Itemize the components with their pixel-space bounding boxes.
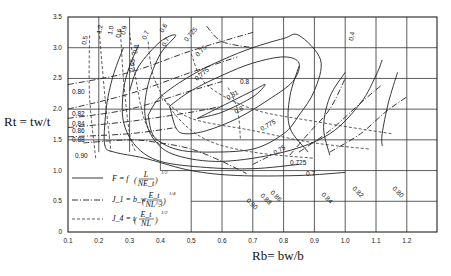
contour-label: 0.6: [158, 22, 169, 34]
chart: 0.51.21.00.60.90.650.80.70.70.60.7250.75…: [0, 0, 451, 276]
contour-label: 0.80: [72, 88, 85, 95]
legend-denominator: NL: [140, 219, 151, 228]
legend-numerator: E_t: [147, 191, 160, 200]
contour-label: 0.725: [182, 25, 198, 42]
legend-denominator: NE_t: [137, 179, 155, 188]
x-tick-labels: 0.10.20.30.40.50.60.70.80.91.01.11.2: [63, 237, 411, 244]
x-tick-label: 1.0: [341, 237, 350, 244]
contour-label: 0.9: [119, 25, 128, 35]
contour-label: 0.88: [72, 136, 85, 143]
contour-label: 0.7: [140, 29, 150, 40]
legend-paren-right: ): [154, 216, 158, 225]
contour-curves: [68, 26, 407, 176]
x-tick-label: 0.3: [125, 237, 134, 244]
contour-label: 0.86: [72, 127, 85, 134]
legend-paren-right: ): [154, 176, 158, 185]
y-tick-label: 1.5: [53, 136, 62, 143]
legend-numerator: E_t: [139, 210, 152, 219]
x-tick-label: 0.2: [94, 237, 103, 244]
contour-label: 0.4: [347, 31, 356, 41]
x-tick-label: 0.1: [63, 237, 72, 244]
legend-exponent: 1/4: [169, 191, 176, 196]
legend-entry: J_4 = t(E_tNL)1/2: [112, 210, 168, 228]
legend-paren-right: ): [162, 197, 166, 206]
contour-label: 0.84: [72, 120, 85, 127]
x-tick-label: 0.5: [187, 237, 196, 244]
x-tick-label: 0.7: [248, 237, 257, 244]
contour-label: 0.8: [131, 44, 140, 54]
y-tick-label: 3.0: [53, 44, 62, 51]
contour-label: 0.82: [72, 110, 85, 117]
legend-lhs: J_4 = t: [112, 214, 136, 223]
legend-exponent: 1/2: [161, 170, 168, 175]
y-tick-label: 3.5: [53, 13, 62, 20]
legend-numerator: L: [143, 170, 149, 179]
legend: F = f(LNE_t)1/2J_1 = b_w(E_tNL^3)1/4J_4 …: [72, 170, 176, 228]
y-tick-label: 0.5: [53, 197, 62, 204]
legend-denominator: NL^3: [144, 200, 162, 209]
series-curve-5: [104, 48, 345, 176]
y-axis-label: Rt = tw/t: [4, 114, 51, 129]
contour-label: 1.0: [106, 25, 115, 35]
contour-label: 0.75: [272, 143, 287, 156]
y-tick-label: 0: [58, 228, 62, 235]
x-tick-label: 0.8: [279, 237, 288, 244]
contour-label: 0.90: [245, 197, 259, 211]
legend-paren-left: (: [134, 216, 138, 225]
x-axis-label: Rb= bw/b: [252, 248, 304, 263]
x-tick-label: 1.1: [371, 237, 380, 244]
y-tick-label: 1.0: [53, 167, 62, 174]
legend-entry: J_1 = b_w(E_tNL^3)1/4: [112, 191, 176, 209]
series-curve-1: [197, 84, 265, 118]
contour-label: 0.725: [290, 159, 307, 166]
x-tick-label: 0.4: [156, 237, 165, 244]
x-tick-label: 0.9: [310, 237, 319, 244]
contour-label: 0.5: [80, 35, 89, 45]
contour-label: 0.7: [306, 170, 315, 177]
y-tick-labels: 00.51.01.52.02.53.03.5: [53, 13, 62, 235]
contour-label: 0.75: [194, 44, 208, 58]
contour-curve: [207, 26, 253, 48]
contour-curve: [299, 85, 382, 153]
contour-label: 0.7: [160, 36, 171, 48]
contour-label: 0.81: [225, 88, 240, 101]
x-tick-label: 0.6: [217, 237, 226, 244]
legend-exponent: 1/2: [161, 210, 168, 215]
contour-label: 0.8: [240, 78, 249, 85]
contour-label: 0.80: [391, 185, 405, 199]
contour-label: 1.2: [95, 24, 104, 34]
contour-label: 0.84: [320, 191, 334, 205]
contour-label: 0.65: [127, 58, 136, 72]
x-tick-label: 1.2: [402, 237, 411, 244]
contour-curve: [191, 54, 391, 134]
legend-entry: F = f(LNE_t)1/2: [111, 170, 168, 188]
contour-label: 0.775: [259, 117, 277, 131]
legend-lhs: F = f: [111, 174, 130, 183]
contour-label: 0.82: [351, 185, 365, 199]
contour-label: 0.90: [75, 152, 88, 159]
y-tick-label: 2.0: [53, 105, 62, 112]
y-tick-label: 2.5: [53, 74, 62, 81]
